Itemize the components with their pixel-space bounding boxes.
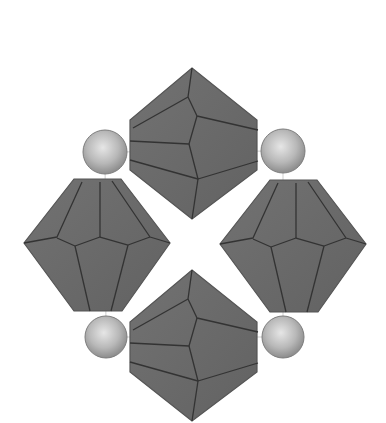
top-bicone-bead [130,68,258,219]
pearl-top-left [83,130,127,174]
pearl-top-right [261,129,305,173]
bead-pattern-diagram [0,0,386,423]
pearl-bottom-left [85,316,127,358]
bottom-bicone-bead [130,270,258,421]
left-bicone-bead [24,179,170,311]
pearl-bottom-right [262,316,304,358]
right-bicone-bead [220,180,366,312]
